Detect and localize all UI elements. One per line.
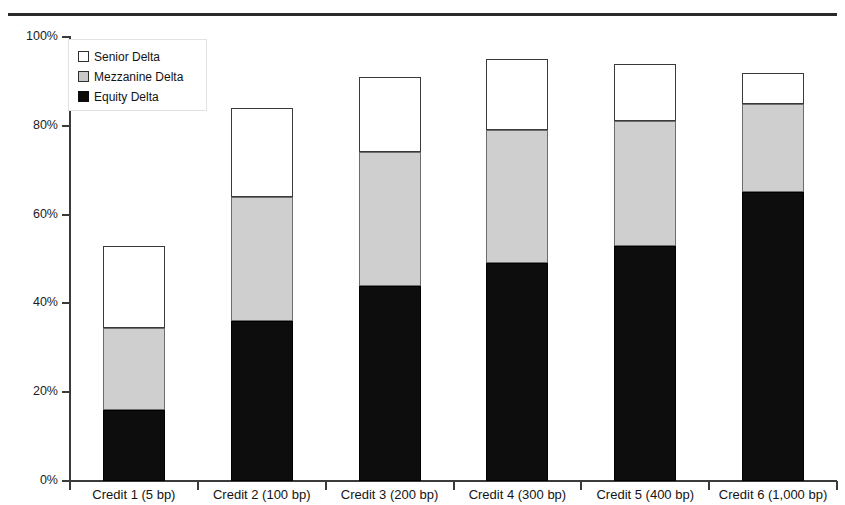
bar-stack — [614, 37, 676, 481]
y-axis-tick-label-text: 100% — [10, 30, 58, 43]
y-axis-tick-label: 20% — [0, 385, 58, 399]
chart-page: 0%20%40%60%80%100% Credit 1 (5 bp)Credit… — [0, 0, 845, 505]
y-axis-tick-label-text: 60% — [10, 208, 58, 221]
legend-label-mezzanine: Mezzanine Delta — [94, 71, 183, 83]
bar-stack — [359, 37, 421, 481]
bar-stack — [231, 37, 293, 481]
bar-segment-mezzanine — [359, 152, 421, 285]
bar-segment-mezzanine — [231, 197, 293, 321]
bar-segment-senior — [614, 64, 676, 122]
header-divider-rule — [8, 13, 837, 16]
y-axis-tick-mark — [62, 214, 70, 216]
y-axis-tick-label: 80% — [0, 119, 58, 133]
y-axis-tick-label: 0% — [0, 474, 58, 488]
chart-legend: Senior Delta Mezzanine Delta Equity Delt… — [68, 39, 207, 111]
legend-swatch-mezzanine-icon — [78, 71, 89, 82]
x-axis-category-label: Credit 4 (300 bp) — [454, 487, 582, 503]
bar-segment-senior — [486, 59, 548, 130]
legend-swatch-equity-icon — [78, 91, 89, 102]
x-axis-category-label: Credit 6 (1,000 bp) — [709, 487, 837, 503]
y-axis-tick-label: 40% — [0, 296, 58, 310]
bar-segment-equity — [103, 410, 165, 481]
bar-segment-mezzanine — [614, 121, 676, 245]
y-axis-tick-label-text: 0% — [10, 474, 58, 487]
x-axis-line — [62, 480, 837, 482]
bar-segment-mezzanine — [742, 104, 804, 193]
y-axis-tick-label: 60% — [0, 208, 58, 222]
bar-segment-equity — [359, 286, 421, 481]
bar-segment-senior — [103, 246, 165, 328]
y-axis-tick-mark — [62, 36, 70, 38]
y-axis-tick-label-text: 40% — [10, 296, 58, 309]
bar-segment-equity — [486, 263, 548, 481]
x-axis-category-label: Credit 2 (100 bp) — [198, 487, 326, 503]
legend-item-mezzanine-delta: Mezzanine Delta — [78, 67, 198, 86]
y-axis-tick-mark — [62, 125, 70, 127]
x-axis-category-label: Credit 1 (5 bp) — [70, 487, 198, 503]
bar-segment-equity — [742, 192, 804, 481]
y-axis-tick-label-text: 80% — [10, 119, 58, 132]
legend-label-senior: Senior Delta — [94, 51, 160, 63]
bar-segment-equity — [231, 321, 293, 481]
bar-segment-senior — [231, 108, 293, 197]
y-axis-tick-label-text: 20% — [10, 385, 58, 398]
x-axis-category-label: Credit 5 (400 bp) — [581, 487, 709, 503]
y-axis-tick-mark — [62, 391, 70, 393]
bar-segment-equity — [614, 246, 676, 481]
y-axis-tick-mark — [62, 302, 70, 304]
bar-stack — [486, 37, 548, 481]
bar-segment-senior — [359, 77, 421, 152]
x-axis-category-label: Credit 3 (200 bp) — [326, 487, 454, 503]
y-axis-tick-label: 100% — [0, 30, 58, 44]
legend-swatch-senior-icon — [78, 51, 89, 62]
bar-segment-mezzanine — [103, 328, 165, 410]
bar-segment-senior — [742, 73, 804, 104]
legend-item-equity-delta: Equity Delta — [78, 87, 198, 106]
legend-label-equity: Equity Delta — [94, 91, 159, 103]
bar-stack — [742, 37, 804, 481]
bar-segment-mezzanine — [486, 130, 548, 263]
legend-item-senior-delta: Senior Delta — [78, 47, 198, 66]
